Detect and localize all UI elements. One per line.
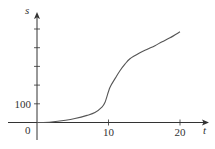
x-axis-label: t xyxy=(203,124,207,136)
line-chart: 1020 100 t s 0 xyxy=(0,0,215,149)
data-curve xyxy=(37,32,180,123)
y-ticks: 100 xyxy=(15,29,41,110)
origin-label: 0 xyxy=(25,124,31,136)
y-tick-label: 100 xyxy=(15,98,32,110)
y-axis-arrow-icon xyxy=(34,12,40,19)
x-tick-label: 20 xyxy=(175,126,187,138)
x-tick-label: 10 xyxy=(103,126,115,138)
y-axis-label: s xyxy=(25,4,29,16)
